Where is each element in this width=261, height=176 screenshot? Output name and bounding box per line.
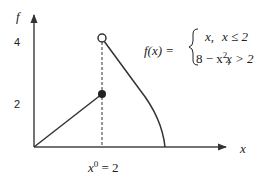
x-axis-label: x	[239, 141, 246, 156]
x0-label: x0 = 2	[87, 159, 119, 175]
case1-expr: x,	[204, 29, 214, 44]
y-tick-2: 2	[14, 98, 20, 110]
open-circle-point	[98, 34, 106, 42]
y-tick-4: 4	[14, 36, 20, 48]
y-axis-label: f	[16, 9, 22, 24]
piecewise-function-diagram: f x 4 2 x0 = 2 f(x) = x, x ≤ 2 8 − x2, x…	[0, 0, 261, 176]
linear-segment	[34, 94, 102, 147]
case1-cond: x ≤ 2	[221, 29, 248, 44]
filled-point	[98, 90, 106, 98]
formula-lhs: f(x) =	[144, 43, 174, 58]
case2-cond: x > 2	[225, 51, 254, 66]
piecewise-formula: f(x) = x, x ≤ 2 8 − x2, x > 2	[144, 29, 254, 66]
